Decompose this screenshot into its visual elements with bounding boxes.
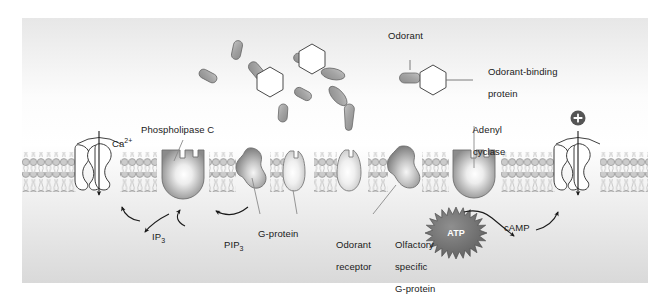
odorant-receptor-2	[337, 150, 361, 191]
label-calcium: Ca2+	[101, 124, 133, 160]
label-adenyl-cyclase: Adenyl cyclase	[462, 113, 505, 168]
atp-label: ATP	[447, 228, 464, 238]
label-pip3: PIP3	[213, 228, 244, 265]
label-olfactory-specific-g-protein: Olfactory specific G-protein	[384, 228, 435, 300]
label-phospholipase-c: Phospholipase C	[141, 124, 214, 135]
legend-label-odorant-binding-protein: Odorant-binding protein	[477, 55, 558, 110]
figure-root: ATP	[0, 0, 670, 300]
label-odorant-receptor: Odorant receptor	[325, 228, 372, 283]
legend-odorant-capsule	[400, 73, 421, 83]
label-g-protein: G-protein	[258, 228, 299, 239]
label-ip3: IP3	[141, 220, 165, 257]
odorant-receptor-1	[283, 151, 305, 191]
label-camp: cAMP	[504, 222, 530, 233]
legend-label-odorant: Odorant	[388, 30, 423, 41]
odorant-8	[278, 104, 288, 123]
